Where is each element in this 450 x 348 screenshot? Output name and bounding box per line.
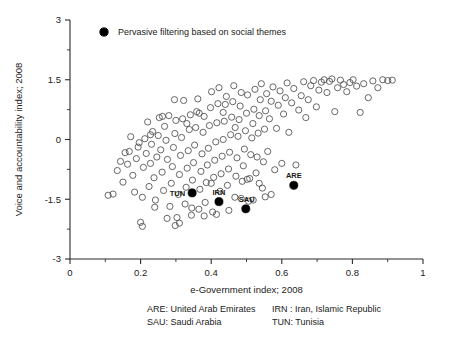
data-point-open — [230, 99, 236, 105]
data-point-open — [231, 83, 237, 89]
data-point-open — [190, 160, 196, 166]
data-point-open — [147, 160, 153, 166]
data-point-open — [389, 77, 395, 83]
data-point-open — [332, 109, 338, 115]
data-point-open — [117, 158, 123, 164]
data-point-open — [139, 194, 145, 200]
data-point-open — [216, 85, 222, 91]
data-point-open — [159, 169, 165, 175]
data-point-open — [135, 144, 141, 150]
data-point-highlighted-irn — [215, 198, 223, 206]
data-point-open — [173, 117, 179, 123]
data-point-open — [133, 156, 139, 162]
data-point-open — [160, 187, 166, 193]
data-point-open — [122, 150, 128, 156]
data-point-open — [248, 152, 254, 158]
data-point-open — [261, 126, 267, 132]
data-point-open — [273, 125, 279, 131]
data-point-open — [277, 88, 283, 94]
data-point-open — [266, 116, 272, 122]
data-point-open — [204, 162, 210, 168]
data-point-open — [241, 146, 247, 152]
data-point-open — [166, 113, 172, 119]
data-point-open — [212, 157, 218, 163]
data-point-open — [296, 107, 302, 113]
data-point-open — [198, 168, 204, 174]
data-point-open — [168, 180, 174, 186]
point-label-tun: TUN — [170, 189, 185, 198]
x-tick-label: 1 — [420, 267, 425, 278]
data-point-open — [258, 81, 264, 87]
data-point-open — [181, 97, 187, 103]
data-point-open — [244, 92, 250, 98]
data-point-open — [256, 113, 262, 119]
data-point-open — [305, 97, 311, 103]
data-point-open — [223, 93, 229, 99]
data-point-open — [234, 155, 240, 161]
data-point-open — [310, 77, 316, 83]
data-point-open — [221, 118, 227, 124]
data-point-open — [289, 100, 295, 106]
data-point-open — [228, 132, 234, 138]
data-point-open — [256, 180, 262, 186]
data-point-open — [365, 95, 371, 101]
data-point-open — [186, 126, 192, 132]
data-point-open — [152, 197, 158, 203]
data-point-open — [242, 128, 248, 134]
data-point-open — [252, 86, 258, 92]
data-point-open — [280, 111, 286, 117]
data-point-open — [139, 223, 145, 229]
data-point-open — [196, 206, 202, 212]
data-point-open — [164, 215, 170, 221]
data-point-open — [151, 175, 157, 181]
data-point-open — [128, 134, 134, 140]
x-axis-title: e-Government index; 2008 — [190, 284, 302, 295]
data-point-open — [251, 106, 257, 112]
data-point-open — [268, 98, 274, 104]
data-point-open — [170, 144, 176, 150]
data-point-open — [182, 201, 188, 207]
data-point-open — [301, 79, 307, 85]
data-point-open — [340, 81, 346, 87]
data-point-open — [262, 108, 268, 114]
data-point-open — [195, 96, 201, 102]
footnote-line: SAU: Saudi Arabia — [147, 317, 222, 327]
footnote-line: TUN: Tunisia — [272, 317, 324, 327]
data-point-open — [158, 147, 164, 153]
y-tick-label: 1.5 — [48, 74, 61, 85]
data-point-open — [145, 119, 151, 125]
data-point-open — [253, 170, 259, 176]
data-point-open — [233, 173, 239, 179]
data-point-open — [193, 124, 199, 130]
data-point-open — [213, 139, 219, 145]
data-point-open — [171, 97, 177, 103]
data-point-open — [222, 101, 228, 107]
data-point-open — [114, 167, 120, 173]
data-point-open — [178, 134, 184, 140]
data-point-open — [284, 80, 290, 86]
data-point-open — [272, 167, 278, 173]
scatter-plot-figure: TUNIRNSAUARE 31.50-1.5-300.20.40.60.81e-… — [0, 0, 450, 348]
data-point-open — [177, 152, 183, 158]
data-point-open — [324, 89, 330, 95]
data-point-open — [370, 78, 376, 84]
data-point-highlighted-tun — [188, 189, 196, 197]
data-point-open — [268, 191, 274, 197]
data-point-open — [225, 166, 231, 172]
data-point-open — [219, 153, 225, 159]
data-point-open — [164, 156, 170, 162]
data-point-open — [197, 186, 203, 192]
data-point-open — [192, 142, 198, 148]
data-point-open — [344, 89, 350, 95]
data-point-open — [163, 137, 169, 143]
data-point-open — [275, 102, 281, 108]
data-point-highlighted-are — [290, 181, 298, 189]
data-point-open — [200, 129, 206, 135]
x-tick-label: 0.8 — [346, 267, 359, 278]
data-point-open — [126, 148, 132, 154]
data-point-open — [240, 163, 246, 169]
x-tick-label: 0.4 — [205, 267, 218, 278]
data-point-open — [188, 212, 194, 218]
data-point-open — [142, 136, 148, 142]
data-point-open — [337, 77, 343, 83]
